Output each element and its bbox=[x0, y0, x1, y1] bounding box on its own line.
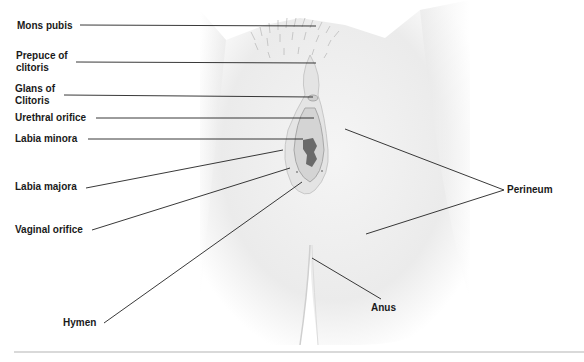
body-silhouette bbox=[200, 0, 470, 345]
label-vaginal-orifice: Vaginal orifice bbox=[15, 224, 83, 236]
label-anus: Anus bbox=[371, 302, 396, 314]
label-hymen: Hymen bbox=[63, 317, 96, 329]
label-labia-minora: Labia minora bbox=[15, 133, 77, 145]
label-mons-pubis: Mons pubis bbox=[17, 20, 73, 32]
label-perineum: Perineum bbox=[507, 184, 553, 196]
label-labia-majora: Labia majora bbox=[15, 181, 77, 193]
label-glans-of-clitoris: Glans of Clitoris bbox=[15, 83, 55, 107]
label-prepuce-of-clitoris: Prepuce of clitoris bbox=[16, 50, 68, 74]
label-urethral-orifice: Urethral orifice bbox=[15, 112, 86, 124]
bottom-divider bbox=[14, 351, 584, 353]
